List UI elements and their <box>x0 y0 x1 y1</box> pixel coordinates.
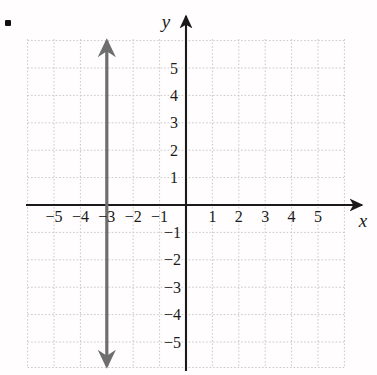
x-tick-labels: −5 −4 −3 −2 −1 1 2 3 4 5 <box>45 208 322 225</box>
y-tick-label: 1 <box>170 169 178 186</box>
y-tick-label: 4 <box>170 87 178 104</box>
y-tick-label: −1 <box>164 224 181 241</box>
x-tick-label: −5 <box>45 208 62 225</box>
x-tick-label: −4 <box>72 208 89 225</box>
x-tick-label: 2 <box>235 208 243 225</box>
x-tick-label: −1 <box>151 208 168 225</box>
x-tick-label: 5 <box>314 208 322 225</box>
graph-figure: y x −5 −4 −3 −2 −1 1 2 3 4 5 5 4 3 2 1 −… <box>0 0 377 375</box>
x-tick-label: −2 <box>125 208 142 225</box>
y-tick-label: 3 <box>170 114 178 131</box>
y-axis-label: y <box>160 11 171 32</box>
y-tick-label: 2 <box>170 142 178 159</box>
y-tick-label: 5 <box>170 60 178 77</box>
x-axis-label: x <box>358 210 368 231</box>
x-tick-label: 3 <box>261 208 269 225</box>
y-tick-label: −5 <box>164 334 181 351</box>
y-tick-label: −4 <box>164 306 181 323</box>
y-tick-label: −2 <box>164 251 181 268</box>
y-tick-label: −3 <box>164 279 181 296</box>
coordinate-plane: y x −5 −4 −3 −2 −1 1 2 3 4 5 5 4 3 2 1 −… <box>0 0 377 375</box>
x-tick-label: −3 <box>98 208 115 225</box>
x-tick-label: 4 <box>288 208 296 225</box>
x-tick-label: 1 <box>208 208 216 225</box>
